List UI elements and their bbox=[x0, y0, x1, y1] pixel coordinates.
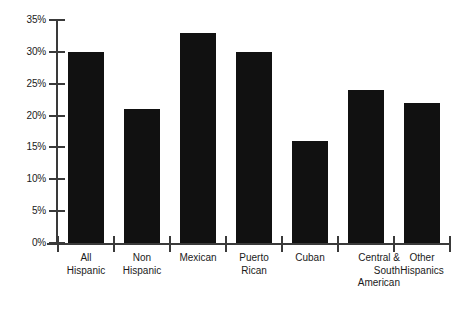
bar-chart: 0%5%10%15%20%25%30%35% AllHispanicNonHis… bbox=[0, 0, 458, 309]
x-axis-category-label-line: American bbox=[332, 277, 400, 290]
bar bbox=[180, 33, 216, 243]
y-axis-tick-label: 30% bbox=[2, 47, 46, 57]
x-axis-category-label-line: Hispanic bbox=[108, 265, 176, 278]
y-axis-tick-label: 15% bbox=[2, 142, 46, 152]
y-axis-tick-label-wrap: 10% bbox=[0, 174, 46, 184]
y-axis-tick-label: 20% bbox=[2, 111, 46, 121]
bar bbox=[292, 141, 328, 243]
bar bbox=[236, 52, 272, 243]
y-axis-tick-label-wrap: 30% bbox=[0, 47, 46, 57]
bar bbox=[124, 109, 160, 243]
plot-area bbox=[58, 20, 450, 243]
y-axis-tick-label: 10% bbox=[2, 174, 46, 184]
bar bbox=[404, 103, 440, 243]
y-axis-tick-label-wrap: 20% bbox=[0, 111, 46, 121]
y-axis-tick-label: 35% bbox=[2, 15, 46, 25]
y-axis-tick-label: 25% bbox=[2, 79, 46, 89]
y-axis-tick-label-wrap: 5% bbox=[0, 206, 46, 216]
x-axis-line bbox=[47, 243, 451, 245]
x-axis-category-label-line: Rican bbox=[220, 265, 288, 278]
y-axis-tick-label-wrap: 15% bbox=[0, 142, 46, 152]
y-axis-tick-label-wrap: 25% bbox=[0, 79, 46, 89]
y-axis-tick-label: 5% bbox=[2, 206, 46, 216]
x-axis-category-label-line: Hispanics bbox=[388, 265, 456, 278]
y-axis-tick-label-wrap: 0% bbox=[0, 238, 46, 248]
y-axis-tick-label: 0% bbox=[2, 238, 46, 248]
x-axis-category-label-line: Other bbox=[388, 252, 456, 265]
bar bbox=[68, 52, 104, 243]
y-axis-tick-label-wrap: 35% bbox=[0, 15, 46, 25]
x-axis-category-label: OtherHispanics bbox=[388, 252, 456, 277]
bar bbox=[348, 90, 384, 243]
